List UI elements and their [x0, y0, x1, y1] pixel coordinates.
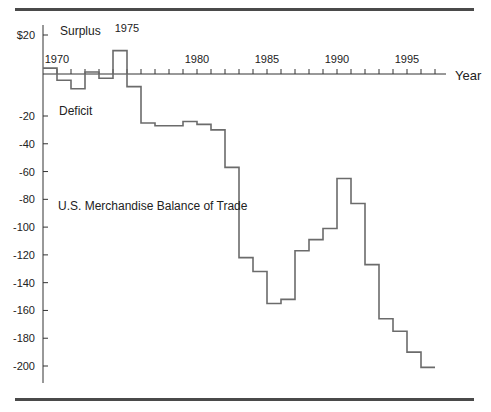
series-label: U.S. Merchandise Balance of Trade: [58, 199, 248, 213]
x-axis: 197019751980198519901995: [43, 22, 446, 74]
x-tick-label: 1985: [255, 53, 279, 65]
x-tick-label: 1975: [115, 22, 139, 34]
y-tick-label: -40: [19, 138, 35, 150]
x-tick-label: 1995: [395, 53, 419, 65]
y-tick-label: -100: [13, 221, 35, 233]
x-tick-label: 1990: [325, 53, 349, 65]
y-tick-label: -120: [13, 249, 35, 261]
x-axis-title: Year: [455, 68, 482, 83]
x-tick-label: 1980: [185, 53, 209, 65]
y-tick-label: -180: [13, 332, 35, 344]
surplus-label: Surplus: [60, 24, 101, 38]
trade-balance-chart: $20-20-40-60-80-100-120-140-160-180-200 …: [0, 0, 491, 412]
y-tick-label: -200: [13, 360, 35, 372]
deficit-label: Deficit: [59, 104, 93, 118]
y-tick-label: -80: [19, 193, 35, 205]
y-tick-label: -20: [19, 110, 35, 122]
y-tick-label: -60: [19, 166, 35, 178]
y-axis: $20-20-40-60-80-100-120-140-160-180-200: [13, 25, 48, 383]
y-tick-label: -160: [13, 304, 35, 316]
y-tick-label: $20: [17, 29, 35, 41]
x-tick-label: 1970: [45, 53, 69, 65]
y-tick-label: -140: [13, 277, 35, 289]
